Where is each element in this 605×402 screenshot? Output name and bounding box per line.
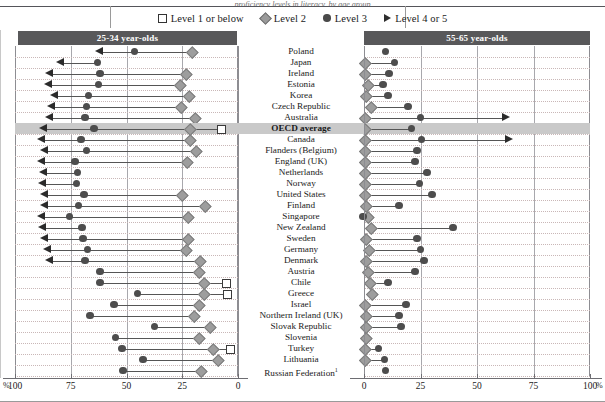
connector-left xyxy=(115,338,199,339)
row-separator xyxy=(15,310,238,311)
marker-level4-left xyxy=(39,124,47,132)
figure-root: proficiency levels in literacy, by age g… xyxy=(0,0,605,402)
country-label: Netherlands xyxy=(238,167,364,178)
country-label: Turkey xyxy=(238,343,364,354)
tick-label-right-25: 25 xyxy=(401,381,441,391)
connector-left xyxy=(45,162,187,163)
marker-level4-left xyxy=(40,201,48,209)
tick-left-25 xyxy=(182,374,183,378)
connector-left xyxy=(100,272,199,273)
connector-right xyxy=(365,184,419,185)
country-label: Canada xyxy=(238,134,364,145)
legend-item-level1: Level 1 or below xyxy=(158,13,244,24)
country-label: Korea xyxy=(238,90,364,101)
row-separator xyxy=(364,189,590,190)
country-label: Russian Federation1 xyxy=(238,365,364,379)
marker-level3-left xyxy=(86,312,94,320)
tick-label-right-0: 0 xyxy=(344,381,384,391)
row-separator xyxy=(364,321,590,322)
marker-level4-left xyxy=(37,157,45,165)
connector-left xyxy=(48,206,204,207)
marker-level3-right xyxy=(395,312,403,320)
row-separator xyxy=(364,310,590,311)
connector-left xyxy=(53,118,195,119)
tick-label-left-25: 25 xyxy=(162,381,202,391)
chart-pane-right xyxy=(364,46,590,376)
row-separator xyxy=(15,57,238,58)
axis-unit-left: % xyxy=(3,381,10,390)
tick-label-left-75: 75 xyxy=(51,381,91,391)
chart-pane-left xyxy=(15,46,238,376)
connector-left xyxy=(138,294,227,295)
row-separator xyxy=(364,222,590,223)
row-separator xyxy=(15,167,238,168)
legend-item-level2: Level 2 xyxy=(261,13,306,24)
connector-left xyxy=(48,239,187,240)
marker-level3-right xyxy=(411,268,419,276)
marker-level1-left xyxy=(226,345,235,354)
connector-right xyxy=(369,250,421,251)
marker-level3-right xyxy=(402,301,410,309)
connector-left xyxy=(154,327,210,328)
marker-level4-left xyxy=(95,47,103,55)
row-separator xyxy=(364,200,590,201)
row-separator xyxy=(364,277,590,278)
legend-label-level3: Level 3 xyxy=(335,13,367,24)
row-separator xyxy=(364,365,590,366)
tick-label-left-50: 50 xyxy=(107,381,147,391)
connector-left xyxy=(45,140,190,141)
country-label: Austria xyxy=(238,266,364,277)
connector-left xyxy=(47,173,77,174)
label-column-right-border xyxy=(364,46,365,376)
connector-left xyxy=(58,96,188,97)
marker-level1-left xyxy=(222,279,231,288)
marker-level4-left xyxy=(40,190,48,198)
connector-left xyxy=(46,228,82,229)
row-separator xyxy=(15,134,238,135)
marker-level3-left xyxy=(96,70,104,78)
marker-level4-left xyxy=(38,223,46,231)
country-label: Norway xyxy=(238,178,364,189)
country-label: Japan xyxy=(238,57,364,68)
connector-left xyxy=(48,195,182,196)
tick-label-left-0: 0 xyxy=(218,381,258,391)
row-separator xyxy=(364,354,590,355)
marker-level4-right xyxy=(505,135,513,143)
triangle-icon xyxy=(384,14,391,22)
row-separator xyxy=(15,222,238,223)
marker-level4-left xyxy=(37,135,45,143)
tick-left-0 xyxy=(238,374,239,378)
tick-left-100 xyxy=(15,374,16,378)
axis-line-right xyxy=(350,378,602,379)
legend-item-level3: Level 3 xyxy=(323,13,367,24)
row-separator xyxy=(364,211,590,212)
row-separator xyxy=(364,299,590,300)
country-label: Israel xyxy=(238,299,364,310)
legend: Level 1 or below Level 2 Level 3 Level 4… xyxy=(0,8,605,28)
connector-left xyxy=(143,360,218,361)
marker-level3-left xyxy=(77,136,85,144)
axis-unit-right: % xyxy=(596,381,603,390)
country-label: Denmark xyxy=(238,255,364,266)
marker-level3-right xyxy=(413,147,421,155)
row-separator xyxy=(364,90,590,91)
tick-right-50 xyxy=(477,374,478,378)
tick-left-75 xyxy=(71,374,72,378)
marker-level4-left xyxy=(40,146,48,154)
marker-level3-left xyxy=(96,268,104,276)
row-separator xyxy=(15,233,238,234)
country-label: Slovenia xyxy=(238,332,364,343)
connector-right xyxy=(365,195,432,196)
legend-item-level4: Level 4 or 5 xyxy=(384,13,447,24)
left-border xyxy=(0,30,1,378)
row-separator xyxy=(15,365,238,366)
marker-level4-left xyxy=(45,113,53,121)
tick-label-right-75: 75 xyxy=(514,381,554,391)
marker-level4-left xyxy=(45,69,53,77)
marker-level1-left xyxy=(223,290,232,299)
marker-level1-left xyxy=(217,125,226,134)
marker-level3-left xyxy=(118,345,126,353)
connector-left xyxy=(53,261,200,262)
tick-right-25 xyxy=(421,374,422,378)
circle-icon xyxy=(323,14,331,22)
